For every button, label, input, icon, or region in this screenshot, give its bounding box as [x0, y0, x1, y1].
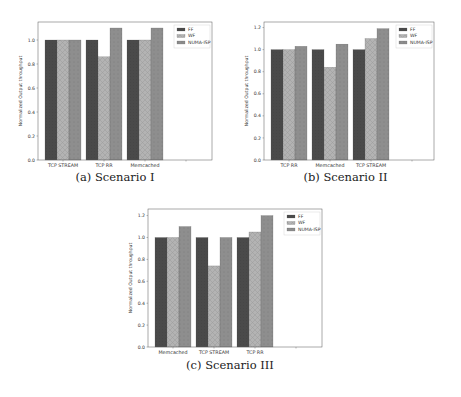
y-tick-label: 0.0: [28, 158, 35, 163]
y-tick-label: 0.4: [138, 301, 145, 306]
y-tick-label: 0.6: [28, 86, 35, 91]
y-tick-label: 0.2: [138, 323, 145, 328]
bar-wf-tcp-stream: [365, 39, 377, 160]
bar-wf-memcached: [324, 67, 336, 160]
legend-swatch-numa-isp: [287, 228, 295, 231]
bar-numa-isp-memcached: [179, 227, 191, 347]
y-tick-label: 0.4: [254, 113, 261, 118]
y-tick-label: 0.6: [254, 91, 261, 96]
chart-svg-scenario-1: TCP STREAMTCP RRMemcached0.00.20.40.60.8…: [0, 0, 230, 195]
y-tick-label: 0.6: [138, 279, 145, 284]
legend-swatch-wf: [177, 35, 185, 38]
bar-wf-memcached: [167, 237, 179, 347]
y-tick-label: 1.0: [28, 38, 35, 43]
bar-numa-isp-tcp-stream: [69, 40, 81, 160]
legend-swatch-ff: [287, 215, 295, 218]
bar-numa-isp-tcp-rr: [295, 46, 307, 160]
legend-label-ff: FF: [410, 27, 416, 32]
bar-numa-isp-memcached: [151, 28, 163, 160]
legend-label-wf: WF: [298, 220, 306, 225]
x-tick-label: Memcached: [315, 163, 344, 168]
legend-swatch-ff: [177, 28, 185, 31]
legend-swatch-wf: [399, 35, 407, 38]
legend-label-ff: FF: [188, 27, 194, 32]
bar-ff-tcp-stream: [196, 237, 208, 347]
legend-swatch-numa-isp: [177, 41, 185, 44]
bar-wf-tcp-rr: [249, 232, 261, 347]
bar-ff-tcp-rr: [271, 50, 283, 160]
caption-scenario-3: (c) Scenario III: [110, 358, 350, 372]
bar-numa-isp-tcp-stream: [220, 237, 232, 347]
y-tick-label: 0.8: [28, 62, 35, 67]
bar-numa-isp-tcp-rr: [261, 216, 273, 347]
bar-ff-memcached: [127, 40, 139, 160]
legend-label-ff: FF: [298, 214, 304, 219]
x-tick-label: TCP STREAM: [47, 163, 78, 168]
chart-scenario-3: MemcachedTCP STREAMTCP RR0.00.20.40.60.8…: [110, 190, 350, 397]
legend-label-numa-isp: NUMA-ISP: [410, 40, 433, 45]
y-axis-label: Normalized Output throughput: [18, 55, 23, 126]
bar-numa-isp-tcp-stream: [377, 29, 389, 160]
bar-ff-memcached: [155, 237, 167, 347]
legend-label-numa-isp: NUMA-ISP: [188, 40, 211, 45]
legend-swatch-wf: [287, 222, 295, 225]
legend-label-numa-isp: NUMA-ISP: [298, 227, 321, 232]
bar-ff-tcp-rr: [86, 40, 98, 160]
y-tick-label: 0.0: [138, 345, 145, 350]
y-tick-label: 0.0: [254, 158, 261, 163]
bar-ff-memcached: [312, 50, 324, 160]
y-tick-label: 1.2: [254, 25, 261, 30]
legend-swatch-ff: [399, 28, 407, 31]
bar-wf-tcp-stream: [57, 40, 69, 160]
x-tick-label: TCP STREAM: [198, 350, 229, 355]
x-tick-label: TCP STREAM: [355, 163, 386, 168]
bar-ff-tcp-rr: [237, 237, 249, 347]
x-tick-label: TCP RR: [94, 163, 113, 168]
y-tick-label: 0.2: [254, 136, 261, 141]
chart-scenario-1: TCP STREAMTCP RRMemcached0.00.20.40.60.8…: [0, 0, 230, 195]
x-tick-label: Memcached: [130, 163, 159, 168]
legend-swatch-numa-isp: [399, 41, 407, 44]
caption-scenario-2: (b) Scenario II: [230, 170, 461, 184]
y-tick-label: 0.2: [28, 134, 35, 139]
bar-wf-tcp-rr: [283, 50, 295, 160]
y-tick-label: 0.8: [254, 69, 261, 74]
y-axis-label: Normalized Output throughput: [244, 55, 249, 126]
legend-label-wf: WF: [410, 33, 418, 38]
chart-scenario-2: TCP RRMemcachedTCP STREAM0.00.20.40.60.8…: [230, 0, 461, 195]
chart-svg-scenario-2: TCP RRMemcachedTCP STREAM0.00.20.40.60.8…: [230, 0, 461, 195]
y-tick-label: 1.2: [138, 213, 145, 218]
x-tick-label: TCP RR: [279, 163, 298, 168]
x-tick-label: Memcached: [158, 350, 187, 355]
bar-wf-tcp-stream: [208, 266, 220, 347]
y-tick-label: 0.8: [138, 257, 145, 262]
bar-ff-tcp-stream: [353, 50, 365, 160]
y-axis-label: Normalized Output throughput: [128, 242, 133, 313]
bar-ff-tcp-stream: [45, 40, 57, 160]
bar-numa-isp-tcp-rr: [110, 28, 122, 160]
bar-wf-memcached: [139, 40, 151, 160]
x-tick-label: TCP RR: [245, 350, 264, 355]
y-tick-label: 1.0: [138, 235, 145, 240]
bar-numa-isp-memcached: [336, 44, 348, 160]
y-tick-label: 0.4: [28, 110, 35, 115]
y-tick-label: 1.0: [254, 47, 261, 52]
caption-scenario-1: (a) Scenario I: [0, 170, 230, 184]
legend-label-wf: WF: [188, 33, 196, 38]
bar-wf-tcp-rr: [98, 57, 110, 160]
